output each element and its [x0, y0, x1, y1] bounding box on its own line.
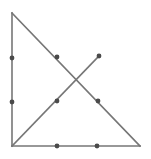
geometry-figure: [0, 0, 151, 159]
geometry-canvas: [0, 0, 151, 159]
ascending-segment-point: [55, 99, 60, 104]
hypotenuse-point-upper: [55, 55, 60, 60]
left-leg-point-lower: [10, 100, 15, 105]
bottom-leg-point-left: [55, 144, 60, 149]
bottom-leg-point-right: [95, 144, 100, 149]
ascending-segment-endpoint: [97, 54, 102, 59]
left-leg-point-upper: [10, 56, 15, 61]
hypotenuse-point-lower: [96, 99, 101, 104]
